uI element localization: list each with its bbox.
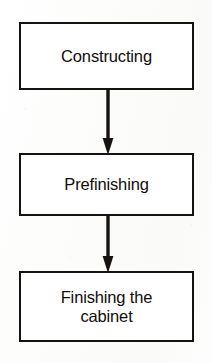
flowchart-node-prefinishing[interactable]: Prefinishing [19,153,194,216]
flowchart-node-prefinishing-label: Prefinishing [58,175,154,193]
arrow-shaft [106,88,109,142]
flowchart-arrow-constructing-to-prefinishing [100,88,116,155]
flowchart-diagram: Constructing Prefinishing Finishing the … [0,0,212,363]
flowchart-node-finishing-cabinet-label: Finishing the cabinet [55,288,159,325]
flowchart-node-constructing-label: Constructing [55,47,158,65]
flowchart-node-finishing-cabinet[interactable]: Finishing the cabinet [19,271,194,342]
flowchart-node-constructing[interactable]: Constructing [19,22,194,90]
arrow-shaft [106,214,109,260]
flowchart-arrow-prefinishing-to-finishing-cabinet [100,214,116,273]
